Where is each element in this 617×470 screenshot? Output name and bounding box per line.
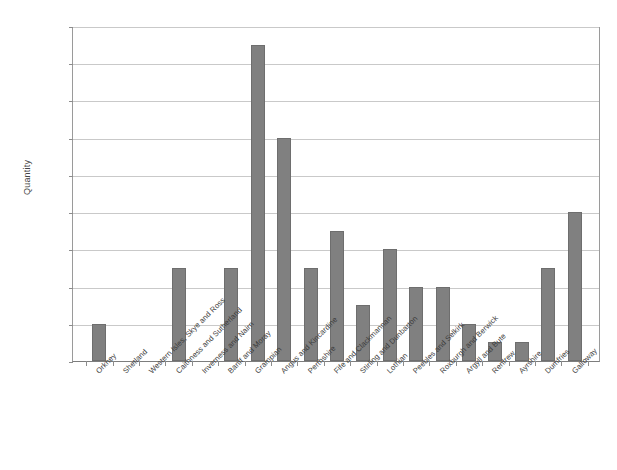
plot-area: 024681012141618 bbox=[72, 27, 600, 362]
y-tick-mark bbox=[69, 139, 73, 140]
y-tick-mark bbox=[69, 362, 73, 363]
bar bbox=[541, 268, 555, 361]
y-axis-title: Quantity bbox=[22, 60, 32, 150]
y-tick-mark bbox=[69, 27, 73, 28]
gridline bbox=[73, 101, 599, 102]
x-tick-mark bbox=[86, 361, 87, 366]
bar bbox=[330, 231, 344, 361]
bar bbox=[568, 212, 582, 361]
gridline bbox=[73, 27, 599, 28]
bar bbox=[92, 324, 106, 361]
y-tick-mark bbox=[69, 101, 73, 102]
y-tick-mark bbox=[69, 250, 73, 251]
gridline bbox=[73, 139, 599, 140]
gridline bbox=[73, 64, 599, 65]
y-axis-title-label: Quantity bbox=[22, 160, 32, 195]
y-tick-mark bbox=[69, 288, 73, 289]
y-tick-mark bbox=[69, 325, 73, 326]
y-tick-mark bbox=[69, 64, 73, 65]
bar bbox=[277, 138, 291, 361]
gridline bbox=[73, 213, 599, 214]
bar-chart: Quantity 024681012141618 OrkneyShetlandW… bbox=[0, 0, 617, 470]
y-tick-mark bbox=[69, 176, 73, 177]
gridline bbox=[73, 176, 599, 177]
y-tick-mark bbox=[69, 213, 73, 214]
bar bbox=[251, 45, 265, 361]
